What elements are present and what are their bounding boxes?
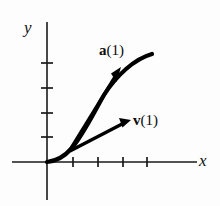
figure-container: y x a(1) v(1) bbox=[0, 0, 220, 206]
velocity-symbol: v bbox=[133, 112, 141, 128]
position-curve bbox=[47, 54, 152, 162]
vector-diagram bbox=[0, 0, 220, 206]
acceleration-symbol: a bbox=[99, 42, 107, 58]
velocity-vector-label: v(1) bbox=[133, 113, 158, 128]
velocity-argument: (1) bbox=[141, 112, 159, 128]
acceleration-argument: (1) bbox=[107, 42, 125, 58]
acceleration-vector-label: a(1) bbox=[99, 43, 124, 58]
y-axis-label: y bbox=[24, 19, 32, 36]
x-axis-label: x bbox=[199, 152, 207, 169]
